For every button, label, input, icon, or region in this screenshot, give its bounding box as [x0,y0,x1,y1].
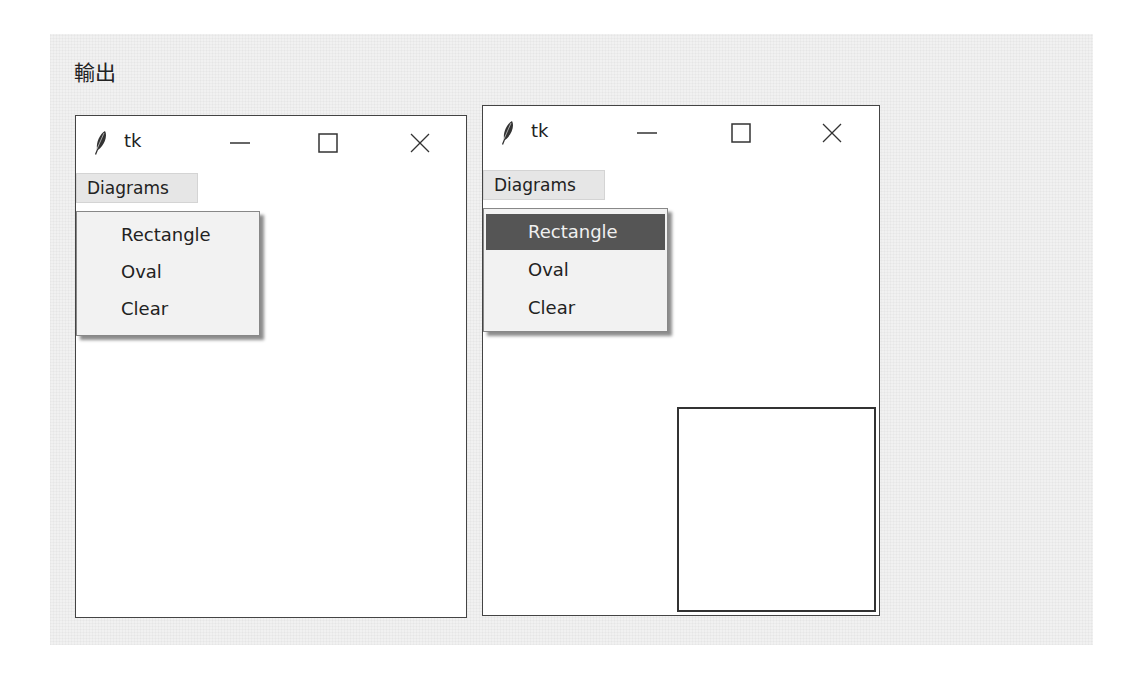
menu-diagrams[interactable]: Diagrams [483,170,605,200]
maximize-icon[interactable] [314,130,342,156]
menu-bar: Diagrams [483,158,879,194]
window-title: tk [124,130,141,151]
window-title: tk [531,120,548,141]
minimize-icon[interactable] [226,130,254,156]
drawn-rectangle [677,407,876,612]
tk-window-2: tk Diagrams Rectangle Oval Clear [482,105,880,616]
maximize-icon[interactable] [727,120,755,146]
title-bar[interactable]: tk [483,106,879,158]
feather-icon [94,130,108,156]
tk-window-1: tk Diagrams Rectangle Oval Clear [75,115,467,618]
menu-bar: Diagrams [76,168,466,204]
menu-item-oval[interactable]: Oval [79,254,257,290]
diagrams-dropdown: Rectangle Oval Clear [483,208,668,332]
output-caption: 輸出 [74,56,116,86]
menu-item-clear[interactable]: Clear [79,291,257,327]
diagrams-dropdown: Rectangle Oval Clear [76,211,260,336]
menu-item-rectangle[interactable]: Rectangle [79,217,257,253]
close-icon[interactable] [406,130,434,156]
title-bar[interactable]: tk [76,116,466,168]
menu-item-oval[interactable]: Oval [486,252,665,288]
minimize-icon[interactable] [633,120,661,146]
menu-item-clear[interactable]: Clear [486,290,665,326]
menu-diagrams[interactable]: Diagrams [76,173,198,203]
close-icon[interactable] [818,120,846,146]
feather-icon [501,120,515,146]
menu-item-rectangle[interactable]: Rectangle [486,214,665,250]
